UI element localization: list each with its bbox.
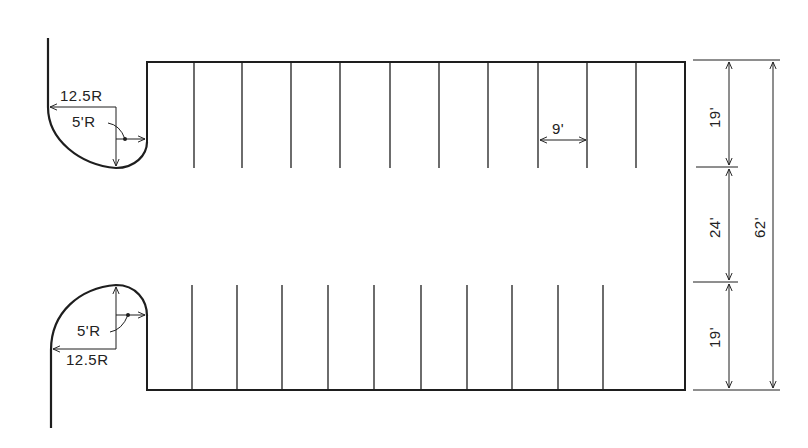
bottom-inner-radius-label: 5'R: [77, 322, 101, 339]
stall-width-label: 9': [552, 120, 564, 137]
top-curb-radius: 12.5R 5'R: [48, 38, 147, 168]
total-depth-label: 62': [751, 217, 768, 238]
bottom-outer-radius-label: 12.5R: [66, 351, 109, 368]
parking-layout-diagram: 9' 12.5R 5'R 5'R 12.5R 19' 24' 19' 62': [0, 0, 808, 448]
bottom-stall-depth-label: 19': [706, 327, 723, 348]
top-stall-depth-label: 19': [706, 107, 723, 128]
top-stall-lines: [194, 62, 636, 168]
bottom-stall-lines: [192, 285, 603, 390]
aisle-width-label: 24': [706, 217, 723, 238]
lot-outline: [147, 62, 685, 390]
top-inner-radius-label: 5'R: [72, 113, 96, 130]
stall-width-dimension: 9': [540, 120, 586, 140]
top-outer-radius-label: 12.5R: [60, 87, 103, 104]
bottom-curb-radius: 5'R 12.5R: [51, 285, 147, 428]
